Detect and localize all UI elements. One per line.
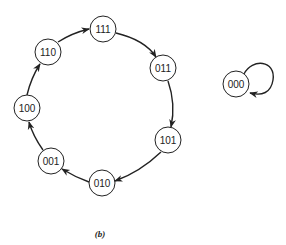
edge-110-111: [58, 29, 89, 42]
state-diagram: 111 011 101 010 001 100 110 000: [0, 0, 286, 245]
node-011: 011: [150, 55, 176, 81]
edge-011-101: [168, 81, 173, 127]
edge-001-100: [29, 122, 43, 150]
node-111: 111: [90, 16, 116, 42]
node-101: 101: [155, 127, 181, 153]
edge-100-110: [27, 64, 40, 95]
svg-text:000: 000: [228, 79, 245, 90]
nodes: 111 011 101 010 001 100 110 000: [14, 16, 249, 196]
svg-text:010: 010: [94, 178, 111, 189]
svg-text:011: 011: [155, 63, 171, 74]
node-010: 010: [89, 170, 115, 196]
svg-text:111: 111: [95, 24, 111, 35]
edge-111-011: [116, 33, 156, 57]
svg-text:100: 100: [19, 103, 36, 114]
node-100: 100: [14, 95, 40, 121]
svg-text:001: 001: [43, 156, 60, 167]
node-110: 110: [35, 39, 61, 65]
edge-010-001: [62, 169, 89, 182]
edge-101-010: [115, 152, 161, 181]
svg-text:101: 101: [160, 135, 177, 146]
node-000: 000: [223, 71, 249, 97]
figure-caption: (b): [95, 229, 106, 239]
svg-text:110: 110: [40, 47, 56, 58]
node-001: 001: [38, 148, 64, 174]
